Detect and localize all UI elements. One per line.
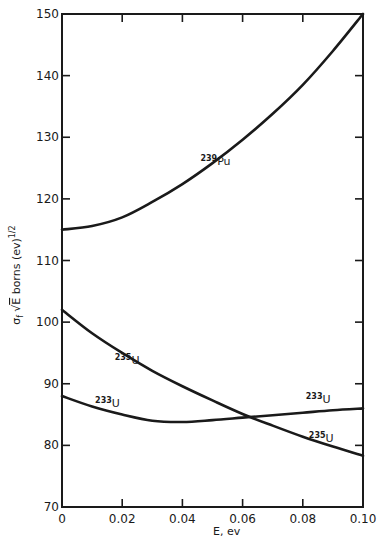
series-label-239Pu: 239Pu (200, 154, 230, 168)
y-tick-label: 70 (44, 500, 59, 514)
x-tick-label: 0 (58, 512, 66, 526)
y-axis-label-text: σf√E borns (ev)1/2 (8, 225, 25, 324)
fission-cross-section-chart: 708090100110120130140150 00.020.040.060.… (0, 0, 388, 543)
x-tick-label: 0.08 (289, 512, 316, 526)
x-tick-label: 0.04 (169, 512, 196, 526)
data-curves (62, 14, 363, 456)
x-axis-label: E, ev (213, 525, 241, 538)
curve-239Pu (62, 14, 363, 230)
x-tick-label: 0.06 (229, 512, 256, 526)
series-label-235U: 235U (115, 353, 140, 367)
y-axis-label: σf√E borns (ev)1/2 (8, 225, 25, 324)
x-tick-label: 0.02 (109, 512, 136, 526)
y-tick-label: 120 (36, 192, 59, 206)
y-tick-label: 140 (36, 69, 59, 83)
y-tick-label: 130 (36, 130, 59, 144)
x-axis-ticks: 00.020.040.060.080.10 (58, 14, 376, 526)
y-tick-label: 80 (44, 438, 59, 452)
y-tick-label: 110 (36, 254, 59, 268)
y-tick-label: 150 (36, 7, 59, 21)
series-label-233U: 233U (306, 392, 331, 406)
y-tick-label: 90 (44, 377, 59, 391)
x-tick-label: 0.10 (350, 512, 377, 526)
y-tick-label: 100 (36, 315, 59, 329)
